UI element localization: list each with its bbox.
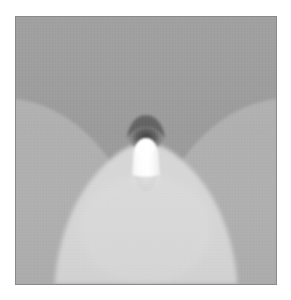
field-heatmap-canvas (16, 17, 276, 284)
field-image-plate (15, 16, 277, 285)
field-luminance-drift (16, 17, 276, 284)
figure-root (0, 0, 291, 300)
